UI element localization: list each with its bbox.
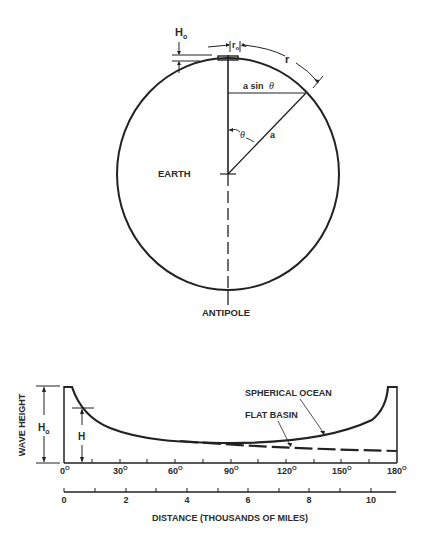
distance-tick-labels: 0 2 4 6 8 10 — [61, 495, 376, 505]
x-axis-title: DISTANCE (THOUSANDS OF MILES) — [152, 513, 308, 523]
h0-label: Ho — [175, 26, 187, 40]
r0-arrow-left — [208, 45, 229, 47]
chart-h-label: H — [78, 431, 85, 442]
earth-label: EARTH — [158, 168, 191, 179]
spherical-ocean-curve — [64, 387, 397, 443]
r0-label: ro — [232, 40, 240, 51]
svg-text:10: 10 — [366, 495, 376, 505]
spherical-ocean-label: SPHERICAL OCEAN — [245, 388, 332, 398]
a-sin-label: a sin — [243, 81, 264, 91]
h-arrow-down-icon — [80, 457, 84, 463]
svg-text:4: 4 — [184, 495, 189, 505]
svg-text:180O: 180O — [387, 465, 407, 476]
wave-height-chart: 0O 30O 60O 90O 120O 150O 180O 0 2 4 6 8 … — [17, 386, 407, 523]
svg-text:8: 8 — [306, 495, 311, 505]
h0-arrow-down-icon — [42, 457, 46, 463]
svg-text:120O: 120O — [277, 465, 297, 476]
svg-text:150O: 150O — [332, 465, 352, 476]
svg-text:30O: 30O — [113, 465, 128, 476]
degree-tick-labels: 0O 30O 60O 90O 120O 150O 180O — [60, 465, 407, 476]
flat-basin-label: FLAT BASIN — [245, 410, 298, 420]
svg-text:60O: 60O — [168, 465, 183, 476]
r0-arrowhead-icon — [226, 43, 230, 47]
theta-arrowhead-icon — [229, 128, 233, 132]
diagram-canvas: Ho ro r a sin θ θ a EARTH ANTIPOLE — [0, 0, 426, 543]
r-arc-lower — [296, 63, 317, 81]
r-arc-upper — [244, 45, 285, 56]
spherical-ocean-leader — [300, 399, 323, 432]
svg-text:6: 6 — [245, 495, 250, 505]
globe-figure: Ho ro r a sin θ θ a EARTH ANTIPOLE — [117, 26, 339, 318]
y-axis-title: WAVE HEIGHT — [17, 393, 27, 456]
svg-text:0: 0 — [61, 495, 66, 505]
svg-text:0O: 0O — [60, 465, 70, 476]
r-label: r — [285, 53, 290, 65]
h0-arrowhead-down-icon — [177, 51, 181, 55]
svg-text:90O: 90O — [224, 465, 239, 476]
svg-text:2: 2 — [123, 495, 128, 505]
flat-basin-arrow-icon — [287, 443, 292, 447]
a-sin-theta-symbol: θ — [269, 80, 274, 91]
a-label: a — [270, 130, 276, 140]
theta-arc-right — [246, 138, 254, 142]
h0-arrow-up-icon — [42, 386, 46, 392]
chart-h0-label: Ho — [38, 422, 50, 435]
h0-arrowhead-up-icon — [177, 61, 181, 65]
theta-label: θ — [240, 129, 245, 140]
antipole-label: ANTIPOLE — [202, 307, 250, 318]
